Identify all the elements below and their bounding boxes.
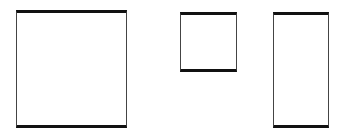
square-small	[180, 12, 237, 72]
square-large	[16, 10, 127, 128]
rectangle-tall	[273, 12, 329, 128]
